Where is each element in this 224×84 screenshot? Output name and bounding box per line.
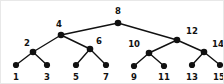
tree-node[interactable] [87, 46, 94, 53]
tree-node[interactable] [44, 62, 50, 68]
tree-edge [61, 23, 118, 35]
tree-node[interactable] [201, 49, 208, 56]
tree-node[interactable] [103, 62, 109, 68]
tree-diagram-figure: 841226101413579111315 [0, 0, 224, 84]
tree-node[interactable] [73, 62, 79, 68]
tree-node[interactable] [174, 37, 181, 44]
tree-node-label: 6 [96, 36, 102, 46]
tree-node[interactable] [189, 62, 195, 68]
tree-node-label: 1 [13, 72, 19, 82]
tree-node-label: 10 [128, 39, 140, 49]
tree-diagram-canvas: 841226101413579111315 [1, 1, 224, 84]
tree-node[interactable] [58, 32, 65, 39]
tree-node-label: 2 [24, 38, 30, 48]
tree-node-label: 15 [213, 72, 224, 82]
tree-node-label: 13 [186, 72, 198, 82]
tree-node[interactable] [115, 20, 122, 27]
tree-node-label: 9 [131, 72, 137, 82]
tree-edge [149, 40, 177, 53]
tree-edge [61, 35, 90, 49]
tree-node-label: 4 [56, 19, 62, 29]
tree-edge [118, 23, 177, 40]
tree-node[interactable] [146, 50, 153, 57]
tree-edge [33, 35, 61, 52]
tree-node-label: 7 [103, 72, 109, 82]
tree-node-label: 11 [158, 72, 170, 82]
tree-node[interactable] [161, 63, 167, 69]
tree-node-label: 3 [44, 72, 50, 82]
tree-node-label: 8 [115, 6, 121, 16]
tree-edge [177, 40, 204, 52]
tree-node[interactable] [131, 63, 137, 69]
tree-node-label: 14 [212, 39, 224, 49]
tree-node-label: 5 [73, 72, 79, 82]
tree-node-label: 12 [186, 26, 198, 36]
tree-node[interactable] [30, 49, 37, 56]
tree-node[interactable] [217, 62, 223, 68]
tree-edge [90, 49, 106, 65]
tree-labels-group: 841226101413579111315 [13, 6, 224, 82]
tree-node[interactable] [13, 62, 19, 68]
